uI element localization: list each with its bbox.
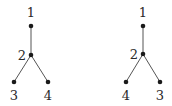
node-2 (141, 52, 146, 57)
node-label-1: 1 (139, 5, 147, 20)
node-2 (29, 53, 34, 58)
node-label-4: 4 (44, 88, 52, 103)
node-label-2: 2 (130, 47, 138, 62)
right-tree: 1243 (122, 5, 164, 103)
edge-2-4 (31, 55, 48, 82)
node-label-4: 4 (122, 88, 130, 103)
node-4 (124, 80, 129, 85)
node-label-3: 3 (156, 88, 164, 103)
edge-2-3 (143, 54, 160, 82)
node-4 (46, 80, 51, 85)
node-1 (29, 24, 34, 29)
node-label-1: 1 (27, 5, 35, 20)
node-3 (12, 80, 17, 85)
node-3 (158, 80, 163, 85)
node-1 (141, 24, 146, 29)
node-label-3: 3 (10, 88, 18, 103)
node-label-2: 2 (18, 48, 26, 63)
tree-diagram: 12341243 (0, 0, 172, 106)
left-tree: 1234 (10, 5, 52, 103)
